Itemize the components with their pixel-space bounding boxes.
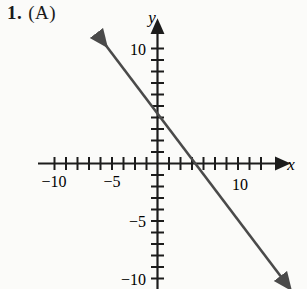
x-tick-label-neg5: −5 (103, 173, 120, 190)
plotted-line (98, 35, 282, 278)
x-axis-label: x (286, 155, 295, 174)
x-tick-label-10: 10 (232, 176, 248, 193)
y-tick-label-10: 10 (130, 41, 146, 58)
x-tick-label-neg10: −10 (41, 173, 66, 190)
coordinate-plane: y x −10 −5 10 10 −5 −10 (0, 0, 307, 289)
y-tick-label-neg10: −10 (121, 271, 146, 288)
y-axis-label: y (146, 8, 156, 27)
y-tick-label-neg5: −5 (129, 213, 146, 230)
graph-figure: 1.(A) (0, 0, 307, 289)
